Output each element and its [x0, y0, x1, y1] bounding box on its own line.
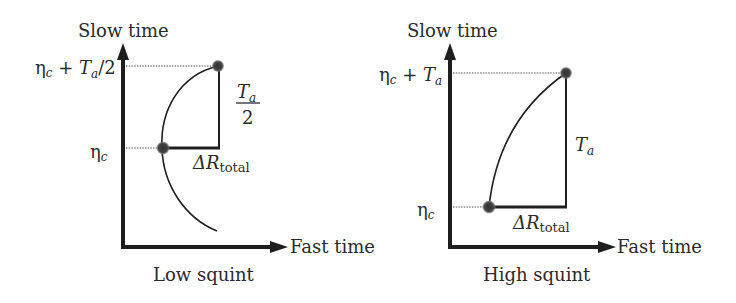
- horizontal-span-label: ΔRtotal: [512, 212, 570, 235]
- squint-diagram: Slow time Fast time Low squint ηc + Ta/2…: [0, 0, 736, 303]
- vertical-span-label: Ta: [575, 134, 594, 158]
- bottom-point: [157, 142, 170, 155]
- bottom-point: [483, 201, 496, 214]
- x-axis-label: Fast time: [617, 236, 702, 257]
- panel-high-squint: Slow time Fast time High squint ηc + Ta …: [379, 20, 702, 285]
- x-axis-arrow-icon: [270, 241, 288, 253]
- top-tick-label: ηc + Ta: [379, 64, 442, 88]
- vertical-span-numerator: Ta: [237, 81, 256, 105]
- top-point: [212, 60, 224, 72]
- bottom-tick-label: ηc: [90, 141, 108, 164]
- x-axis-label: Fast time: [290, 236, 375, 257]
- panel-caption: High squint: [483, 264, 591, 285]
- vertical-span-denominator: 2: [242, 107, 253, 128]
- y-axis-label: Slow time: [407, 20, 498, 41]
- top-point: [560, 67, 572, 79]
- y-axis-label: Slow time: [78, 20, 169, 41]
- horizontal-span-label: ΔRtotal: [192, 152, 250, 175]
- range-migration-curve: [489, 73, 566, 207]
- panel-caption: Low squint: [153, 264, 255, 285]
- panel-low-squint: Slow time Fast time Low squint ηc + Ta/2…: [35, 20, 375, 285]
- y-axis-arrow-icon: [444, 43, 456, 60]
- top-tick-label: ηc + Ta/2: [35, 57, 116, 81]
- y-axis-arrow-icon: [117, 43, 129, 60]
- x-axis-arrow-icon: [598, 241, 616, 253]
- bottom-tick-label: ηc: [417, 199, 435, 222]
